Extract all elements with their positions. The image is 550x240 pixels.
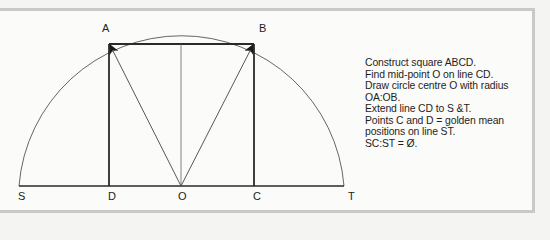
label-A: A: [102, 22, 110, 34]
instruction-line: Extend line CD to S &T.: [365, 103, 535, 115]
instruction-line: Construct square ABCD.: [365, 57, 535, 69]
label-S: S: [18, 190, 25, 202]
instruction-line: Draw circle centre O with radius: [365, 80, 535, 92]
instruction-line: OA:OB.: [365, 92, 535, 104]
radius-OA-arrow: [110, 45, 181, 186]
label-D: D: [108, 190, 116, 202]
instruction-line: Points C and D = golden mean: [365, 115, 535, 127]
construction-instructions: Construct square ABCD. Find mid-point O …: [365, 57, 535, 149]
label-T: T: [348, 190, 355, 202]
instruction-line: positions on line ST.: [365, 126, 535, 138]
label-C: C: [253, 190, 261, 202]
instruction-line: SC:ST = Ø.: [365, 138, 535, 150]
label-B: B: [259, 22, 266, 34]
instruction-line: Find mid-point O on line CD.: [365, 69, 535, 81]
label-O: O: [178, 190, 187, 202]
semicircle-arc: [19, 36, 344, 186]
radius-OB-arrow: [181, 45, 253, 186]
